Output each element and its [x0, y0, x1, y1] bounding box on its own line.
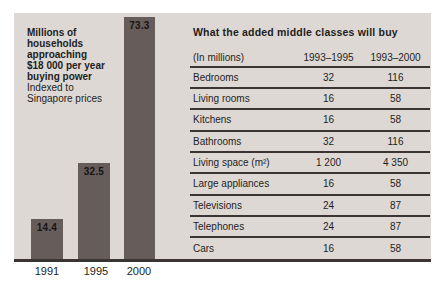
- row-label: Large appliances: [190, 178, 296, 189]
- infographic-panel: Millions of households approaching $18 0…: [14, 13, 431, 262]
- table-row-cars: Cars 16 58: [190, 238, 430, 259]
- value-cell: 32: [296, 136, 361, 147]
- x-tick-1995: 1995: [78, 265, 114, 277]
- row-label: Living space (m²): [190, 157, 296, 168]
- value-cell: 58: [361, 93, 430, 104]
- table-row-bedrooms: Bedrooms 32 116: [190, 68, 430, 89]
- row-label: Bedrooms: [190, 72, 296, 83]
- value-cell: 16: [296, 114, 361, 125]
- value-cell: 58: [361, 114, 430, 125]
- table-row-televisions: Televisions 24 87: [190, 196, 430, 217]
- table-row-bathrooms: Bathrooms 32 116: [190, 132, 430, 153]
- value-cell: 116: [361, 72, 430, 83]
- value-cell: 32: [296, 72, 361, 83]
- row-label: Televisions: [190, 200, 296, 211]
- value-cell: 116: [361, 136, 430, 147]
- bar-value-label-1991: 14.4: [31, 219, 63, 233]
- table-row-living-space: Living space (m²) 1 200 4 350: [190, 153, 430, 174]
- column-header-1993-2000: 1993–2000: [361, 52, 430, 63]
- table-row-kitchens: Kitchens 16 58: [190, 110, 430, 131]
- row-label: Living rooms: [190, 93, 296, 104]
- value-cell: 87: [361, 200, 430, 211]
- value-cell: 16: [296, 93, 361, 104]
- page: { "colors": { "page_bg": "#ffffff", "pan…: [0, 0, 442, 286]
- table-row-telephones: Telephones 24 87: [190, 217, 430, 238]
- table-row-large-appliances: Large appliances 16 58: [190, 174, 430, 195]
- value-cell: 24: [296, 200, 361, 211]
- row-label: Kitchens: [190, 114, 296, 125]
- bar-1995: 32.5: [78, 163, 110, 259]
- x-tick-2000: 2000: [122, 265, 156, 277]
- column-header-1993-1995: 1993–1995: [296, 52, 361, 63]
- bar-value-label-2000: 73.3: [124, 17, 155, 31]
- value-cell: 1 200: [296, 157, 361, 168]
- bar-2000: 73.3: [124, 17, 155, 259]
- table-row-living-rooms: Living rooms 16 58: [190, 89, 430, 110]
- bar-value-label-1995: 32.5: [78, 163, 110, 177]
- column-header-units: (In millions): [190, 52, 296, 63]
- value-cell: 58: [361, 243, 430, 254]
- value-cell: 16: [296, 178, 361, 189]
- table-header-row: (In millions) 1993–1995 1993–2000: [190, 49, 430, 68]
- value-cell: 87: [361, 221, 430, 232]
- row-label: Bathrooms: [190, 136, 296, 147]
- value-cell: 16: [296, 243, 361, 254]
- table-title: What the added middle classes will buy: [193, 26, 398, 38]
- bar-1991: 14.4: [31, 219, 63, 259]
- row-label: Cars: [190, 243, 296, 254]
- consumption-table: What the added middle classes will buy (…: [190, 13, 430, 259]
- row-label: Telephones: [190, 221, 296, 232]
- table-body: Bedrooms 32 116 Living rooms 16 58 Kitch…: [190, 68, 430, 260]
- value-cell: 4 350: [361, 157, 430, 168]
- value-cell: 24: [296, 221, 361, 232]
- x-tick-1991: 1991: [30, 265, 64, 277]
- value-cell: 58: [361, 178, 430, 189]
